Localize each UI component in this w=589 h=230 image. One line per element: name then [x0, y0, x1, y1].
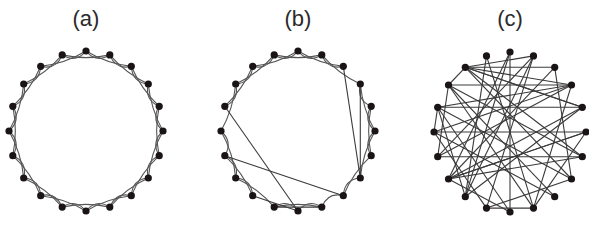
lattice-edge [225, 156, 253, 196]
graph-node [357, 80, 364, 87]
lattice-edge [343, 156, 371, 196]
graph-node [232, 80, 239, 87]
graph-node [9, 152, 16, 159]
lattice-edge [13, 106, 16, 155]
rewired-edge [449, 179, 511, 212]
graph-node [434, 153, 441, 160]
graph-node [271, 204, 278, 211]
graph-node [568, 81, 575, 88]
graph-node [579, 104, 586, 111]
rewired-edge [438, 107, 510, 212]
panel-label-b: (b) [285, 6, 312, 31]
rewired-edge [465, 56, 533, 67]
graph-node [249, 63, 256, 70]
graph-node [430, 128, 437, 135]
graph-node [318, 204, 325, 211]
lattice-edge [110, 55, 149, 84]
graph-node [368, 152, 375, 159]
lattice-edge [13, 156, 41, 196]
graph-node [579, 153, 586, 160]
graph-node [271, 51, 278, 58]
lattice-edge [369, 106, 372, 155]
graph-node [37, 192, 44, 199]
lattice-edge [24, 66, 41, 84]
graph-node [145, 80, 152, 87]
graph-node [530, 205, 537, 212]
lattice-edge [236, 55, 275, 84]
edges-a [9, 51, 163, 211]
graph-node [445, 81, 452, 88]
graph-node [506, 48, 513, 55]
lattice-edge [131, 156, 159, 196]
graph-node [506, 208, 513, 215]
nodes-a [5, 47, 166, 214]
graph-node [128, 63, 135, 70]
rewired-edge [465, 67, 571, 179]
graph-node [357, 174, 364, 181]
lattice-edge [236, 178, 275, 207]
graph-node [294, 47, 301, 54]
lattice-edge [62, 55, 110, 58]
graph-node [82, 47, 89, 54]
graph-node [434, 104, 441, 111]
graph-node [9, 103, 16, 110]
graph-node [217, 127, 224, 134]
graph-node [59, 51, 66, 58]
graph-node [20, 80, 27, 87]
graph-node [483, 205, 490, 212]
graph-node [156, 152, 163, 159]
edges-b [221, 51, 375, 211]
graph-node [340, 63, 347, 70]
lattice-edge [131, 178, 148, 196]
graph-node [221, 152, 228, 159]
graph-node [20, 174, 27, 181]
lattice-edge [274, 55, 322, 58]
lattice-edge [236, 66, 253, 84]
panel-c: (c) [430, 6, 589, 216]
rewired-edge [438, 107, 572, 179]
edges-c [434, 52, 586, 212]
graph-node [232, 174, 239, 181]
lattice-edge [13, 66, 41, 106]
graph-node [145, 174, 152, 181]
graph-node [530, 52, 537, 59]
lattice-edge [24, 178, 41, 196]
graph-node [106, 51, 113, 58]
graph-node [318, 51, 325, 58]
graph-node [82, 207, 89, 214]
lattice-edge [131, 66, 159, 106]
rewired-edge [225, 106, 298, 211]
graph-node [568, 175, 575, 182]
panel-a: (a) [5, 6, 166, 215]
graph-node [462, 64, 469, 71]
graph-node [221, 103, 228, 110]
graph-node [59, 204, 66, 211]
lattice-edge [24, 55, 63, 84]
graph-node [445, 175, 452, 182]
graph-node [340, 192, 347, 199]
graph-node [5, 127, 12, 134]
lattice-edge [131, 66, 148, 84]
small-world-network-figure: (a) (b) (c) [0, 0, 589, 230]
rewired-edge [225, 156, 343, 196]
lattice-edge [110, 178, 149, 207]
graph-node [462, 193, 469, 200]
graph-node [551, 193, 558, 200]
panel-label-c: (c) [497, 6, 523, 31]
lattice-edge [322, 55, 361, 84]
rewired-edge [534, 132, 587, 208]
graph-node [106, 204, 113, 211]
lattice-edge [157, 106, 160, 155]
graph-node [551, 64, 558, 71]
graph-node [483, 52, 490, 59]
graph-node [368, 103, 375, 110]
rewired-edge [434, 107, 438, 132]
panel-b: (b) [217, 6, 378, 215]
graph-node [249, 192, 256, 199]
lattice-edge [343, 178, 360, 196]
graph-node [159, 127, 166, 134]
lattice-edge [24, 178, 63, 207]
lattice-edge [236, 178, 253, 196]
graph-node [128, 192, 135, 199]
rewired-edge [449, 67, 466, 85]
